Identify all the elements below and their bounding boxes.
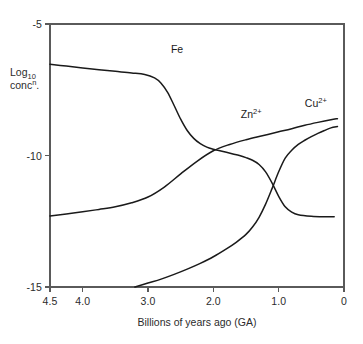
y-axis-tick-label: -5 — [32, 19, 42, 30]
x-axis-tick-label: 2.0 — [206, 296, 221, 307]
x-axis-tick-label: 4.0 — [75, 296, 90, 307]
series-label-fe: Fe — [171, 43, 183, 55]
chart-figure: Log10 concn. Billions of years ago (GA) … — [0, 0, 363, 344]
plot-frame — [50, 24, 344, 287]
y-axis-tick-label: -10 — [27, 150, 42, 161]
x-axis-title: Billions of years ago (GA) — [50, 316, 344, 328]
series-curve-cu2 — [135, 127, 338, 287]
series-curve-fe — [50, 64, 334, 217]
data-series-group — [50, 64, 337, 287]
y-axis-title: Log10 concn. — [10, 66, 72, 91]
y-axis-tick-label: -15 — [27, 282, 42, 293]
series-curve-zn2 — [50, 119, 337, 216]
x-axis-tick-label: 4.5 — [43, 296, 58, 307]
series-label-zn2: Zn2+ — [241, 108, 262, 120]
x-axis-tick-label: 0 — [341, 296, 347, 307]
x-axis-tick-label: 1.0 — [271, 296, 286, 307]
series-label-cu2: Cu2+ — [305, 97, 327, 109]
axis-ticks — [45, 24, 344, 292]
x-axis-tick-label: 3.0 — [141, 296, 156, 307]
y-axis-title-line2: concn. — [10, 79, 39, 91]
